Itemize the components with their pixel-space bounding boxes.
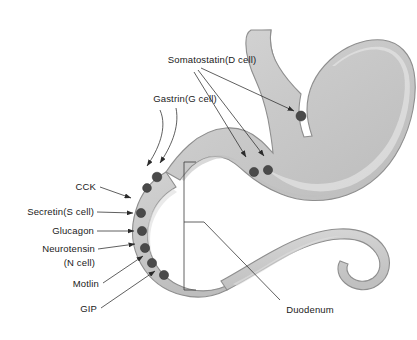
cell-dot-duodenum-3: [136, 208, 145, 217]
label-neurotensin-line1: Neurotensin: [42, 243, 95, 254]
diagram-canvas: Somatostatin(D cell) Gastrin(G cell) CCK…: [0, 0, 417, 340]
anatomical-figure: Somatostatin(D cell) Gastrin(G cell) CCK…: [0, 0, 417, 340]
leader-cck: [100, 187, 131, 198]
label-glucagon: Glucagon: [52, 225, 94, 236]
cell-dot-duodenum-2: [143, 184, 152, 193]
leader-gastrin-1: [147, 110, 163, 166]
cell-dot-duodenum-7: [159, 270, 168, 279]
cell-dot-stomach-fundus: [296, 111, 306, 121]
cell-dot-duodenum-1: [152, 172, 162, 182]
label-secretin: Secretin(S cell): [27, 206, 94, 217]
cell-dot-duodenum-6: [147, 258, 156, 267]
cell-dot-duodenum-4: [137, 226, 146, 235]
cell-dot-antrum-2: [263, 165, 272, 174]
leader-gip: [101, 271, 155, 308]
label-gip: GIP: [80, 303, 97, 314]
cell-dot-antrum-1: [249, 167, 258, 176]
label-neurotensin-line2: (N cell): [64, 257, 95, 268]
leader-gastrin-2: [160, 108, 177, 163]
organ-group: [133, 30, 416, 297]
label-gastrin: Gastrin(G cell): [153, 93, 216, 104]
duodenum-bracket: [184, 162, 204, 290]
leader-motlin: [103, 256, 143, 283]
cell-dot-duodenum-5: [140, 243, 149, 252]
leader-neurotensin: [98, 244, 135, 249]
label-somatostatin: Somatostatin(D cell): [168, 54, 257, 65]
leader-secretin: [97, 212, 133, 213]
label-cck: CCK: [75, 181, 96, 192]
label-duodenum: Duodenum: [286, 304, 334, 315]
label-motlin: Motlin: [73, 278, 99, 289]
